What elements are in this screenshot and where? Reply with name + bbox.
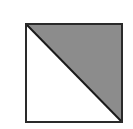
diagonal-square-diagram <box>0 0 133 129</box>
